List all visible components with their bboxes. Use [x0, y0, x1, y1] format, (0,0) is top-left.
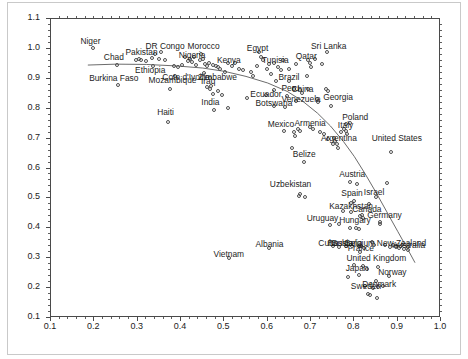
top-minor-tick [232, 16, 233, 18]
x-minor-tick [206, 317, 207, 319]
top-minor-tick [223, 16, 224, 18]
point-label-sri-lanka: Sri Lanka [311, 42, 346, 51]
x-minor-tick [189, 317, 190, 319]
right-minor-tick [440, 185, 442, 186]
top-minor-tick [163, 16, 164, 18]
y-minor-tick [48, 30, 50, 31]
top-minor-tick [379, 16, 380, 18]
point-label-chad: Chad [104, 53, 124, 62]
x-tick-mark [223, 317, 224, 321]
point-label-uzbekistan: Uzbekistan [270, 180, 311, 189]
point-label-united-states: United States [372, 134, 422, 143]
right-minor-tick [440, 257, 442, 258]
y-tick-label: 1.0 [14, 42, 40, 52]
top-minor-tick [119, 16, 120, 18]
x-tick-mark [397, 317, 398, 321]
x-minor-tick [241, 317, 242, 319]
y-tick-label: 0.1 [14, 311, 40, 321]
y-minor-tick [48, 42, 50, 43]
x-minor-tick [327, 317, 328, 319]
right-minor-tick [440, 215, 442, 216]
point-label-brazil: Brazil [279, 73, 300, 82]
right-minor-tick [440, 48, 442, 49]
point-label-italy: Italy [338, 121, 353, 130]
y-minor-tick [48, 185, 50, 186]
point-label-argentina: Argentina [321, 134, 357, 143]
x-minor-tick [293, 317, 294, 319]
x-tick-label: 0.3 [122, 321, 152, 331]
y-tick-label: 0.7 [14, 132, 40, 142]
right-minor-tick [440, 156, 442, 157]
data-point [355, 182, 359, 186]
y-minor-tick [48, 239, 50, 240]
y-tick-mark [46, 287, 50, 288]
top-minor-tick [206, 16, 207, 18]
x-minor-tick [388, 317, 389, 319]
y-minor-tick [48, 251, 50, 252]
y-tick-label: 0.5 [14, 191, 40, 201]
right-minor-tick [440, 281, 442, 282]
x-tick-label: 0.7 [295, 321, 325, 331]
data-point [287, 67, 291, 71]
y-minor-tick [48, 209, 50, 210]
right-minor-tick [440, 84, 442, 85]
point-label-poland: Poland [342, 113, 368, 122]
right-minor-tick [440, 66, 442, 67]
y-minor-tick [48, 144, 50, 145]
x-minor-tick [345, 317, 346, 319]
x-minor-tick [249, 317, 250, 319]
y-tick-mark [46, 197, 50, 198]
y-minor-tick [48, 305, 50, 306]
y-minor-tick [48, 84, 50, 85]
top-minor-tick [93, 16, 94, 18]
x-minor-tick [145, 317, 146, 319]
top-minor-tick [362, 16, 363, 18]
top-minor-tick [301, 16, 302, 18]
top-minor-tick [180, 16, 181, 18]
y-minor-tick [48, 215, 50, 216]
y-tick-mark [46, 108, 50, 109]
x-tick-label: 0.4 [165, 321, 195, 331]
top-minor-tick [405, 16, 406, 18]
point-label-nigeria: Nigeria [179, 51, 206, 60]
x-tick-label: 0.1 [35, 321, 65, 331]
data-point [305, 74, 309, 78]
y-tick-label: 0.2 [14, 281, 40, 291]
y-tick-mark [46, 168, 50, 169]
top-minor-tick [397, 16, 398, 18]
data-point [226, 106, 230, 110]
x-minor-tick [85, 317, 86, 319]
y-minor-tick [48, 269, 50, 270]
y-minor-tick [48, 245, 50, 246]
x-minor-tick [102, 317, 103, 319]
top-minor-tick [310, 16, 311, 18]
top-minor-tick [145, 16, 146, 18]
point-label-belize: Belize [293, 150, 316, 159]
top-minor-tick [423, 16, 424, 18]
x-minor-tick [67, 317, 68, 319]
y-minor-tick [48, 102, 50, 103]
point-label-burkina-faso: Burkina Faso [89, 74, 138, 83]
y-minor-tick [48, 263, 50, 264]
y-tick-mark [46, 257, 50, 258]
right-minor-tick [440, 78, 442, 79]
point-label-uruguay: Uruguay [307, 214, 339, 223]
y-tick-mark [46, 48, 50, 49]
top-minor-tick [241, 16, 242, 18]
y-tick-label: 0.3 [14, 251, 40, 261]
x-tick-label: 0.8 [338, 321, 368, 331]
x-tick-mark [180, 317, 181, 321]
right-minor-tick [440, 144, 442, 145]
right-minor-tick [440, 162, 442, 163]
data-point-uruguay [328, 223, 332, 227]
y-minor-tick [48, 114, 50, 115]
point-label-spain: Spain [341, 189, 362, 198]
y-minor-tick [48, 299, 50, 300]
right-minor-tick [440, 293, 442, 294]
x-minor-tick [336, 317, 337, 319]
point-label-georgia: Georgia [323, 93, 353, 102]
right-minor-tick [440, 239, 442, 240]
right-minor-tick [440, 197, 442, 198]
y-tick-mark [46, 78, 50, 79]
y-tick-label: 0.4 [14, 221, 40, 231]
